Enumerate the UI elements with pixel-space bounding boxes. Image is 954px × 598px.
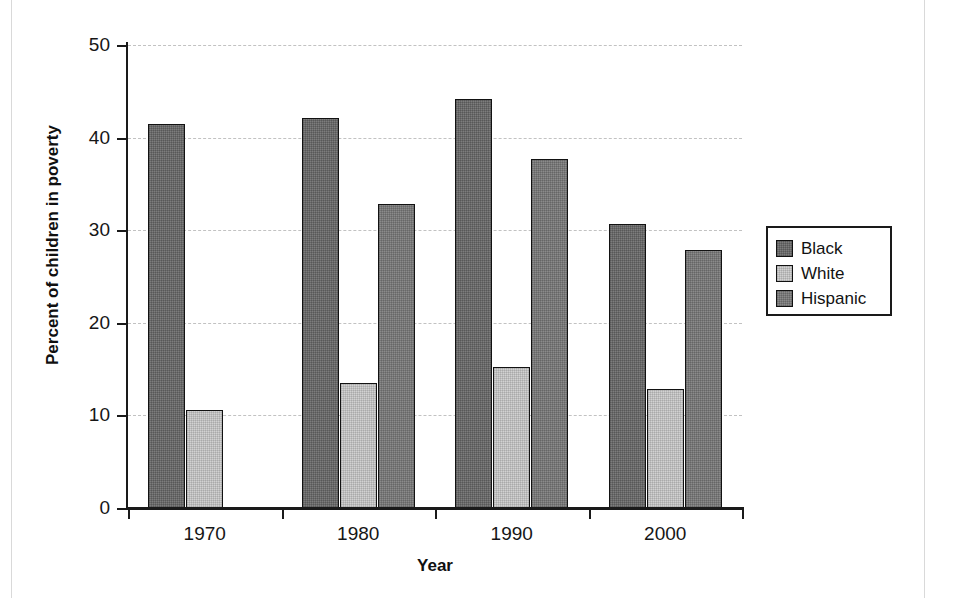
legend: BlackWhiteHispanic bbox=[766, 226, 892, 316]
x-axis-tick bbox=[282, 508, 284, 519]
y-axis-tick-label: 50 bbox=[40, 35, 110, 54]
x-axis-tick-label: 1990 bbox=[452, 524, 572, 543]
x-axis-tick bbox=[128, 508, 130, 519]
plot-area bbox=[128, 45, 742, 508]
legend-label: Hispanic bbox=[801, 290, 866, 307]
legend-swatch-black-icon bbox=[776, 240, 793, 257]
y-axis-title: Percent of children in poverty bbox=[43, 80, 63, 410]
bar-white-2000 bbox=[647, 389, 684, 508]
bar-white-1970 bbox=[186, 410, 223, 508]
gridline bbox=[128, 323, 742, 324]
x-axis-tick-label: 1970 bbox=[145, 524, 265, 543]
y-axis-tick bbox=[117, 415, 127, 417]
x-axis-title: Year bbox=[128, 556, 742, 576]
x-axis-tick bbox=[589, 508, 591, 519]
x-axis-tick-label: 2000 bbox=[605, 524, 725, 543]
legend-swatch-hispanic-icon bbox=[776, 290, 793, 307]
bar-hispanic-1990 bbox=[531, 159, 568, 508]
bar-black-2000 bbox=[609, 224, 646, 508]
legend-label: Black bbox=[801, 240, 843, 257]
bar-black-1990 bbox=[455, 99, 492, 508]
bar-white-1980 bbox=[340, 383, 377, 508]
bar-chart: 01020304050 1970198019902000 Percent of … bbox=[0, 0, 954, 598]
y-axis-tick bbox=[117, 230, 127, 232]
legend-swatch-white-icon bbox=[776, 265, 793, 282]
x-axis-tick bbox=[742, 508, 744, 519]
legend-label: White bbox=[801, 265, 844, 282]
y-axis-tick bbox=[117, 508, 127, 510]
legend-item-black[interactable]: Black bbox=[776, 236, 890, 260]
y-axis-tick bbox=[117, 323, 127, 325]
bar-hispanic-2000 bbox=[685, 250, 722, 508]
bar-white-1990 bbox=[493, 367, 530, 508]
legend-item-hispanic[interactable]: Hispanic bbox=[776, 286, 890, 310]
gridline bbox=[128, 230, 742, 231]
x-axis-tick bbox=[435, 508, 437, 519]
bar-hispanic-1980 bbox=[378, 204, 415, 508]
gridline bbox=[128, 138, 742, 139]
gridline bbox=[128, 45, 742, 46]
bar-black-1970 bbox=[148, 124, 185, 508]
legend-item-white[interactable]: White bbox=[776, 261, 890, 285]
y-axis-tick-label: 0 bbox=[40, 498, 110, 517]
y-axis-tick bbox=[117, 45, 127, 47]
y-axis-line bbox=[126, 42, 128, 510]
bar-black-1980 bbox=[302, 118, 339, 508]
y-axis-tick bbox=[117, 138, 127, 140]
x-axis-tick-label: 1980 bbox=[298, 524, 418, 543]
